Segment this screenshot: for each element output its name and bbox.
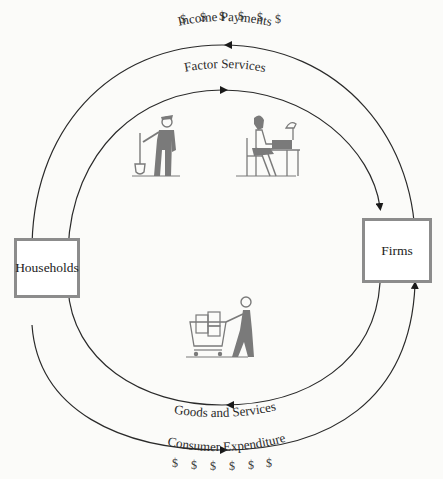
factor-services-label: Factor Services <box>183 56 267 75</box>
dollar-icon: $ <box>210 459 216 473</box>
worker-shovel-icon <box>132 115 180 176</box>
firms-box: Firms <box>362 218 432 283</box>
shopper-cart-icon <box>186 297 254 357</box>
income-payments-label: Income Payments <box>176 9 273 29</box>
dollar-icon: $ <box>229 459 235 473</box>
goods-services-arrow <box>68 283 380 405</box>
arrowhead-income-icon <box>224 41 232 49</box>
dollar-icon: $ <box>275 12 281 26</box>
firms-label: Firms <box>381 243 413 259</box>
factor-services-arrow <box>68 90 380 250</box>
households-label: Households <box>15 260 79 276</box>
consumer-expenditure-label: Consumer Expenditure <box>166 430 287 454</box>
households-box: Households <box>14 238 80 298</box>
dollar-icon: $ <box>248 458 254 472</box>
dollar-icon: $ <box>266 456 272 470</box>
goods-services-label: Goods and Services <box>173 399 277 421</box>
mid-arrowheads <box>220 41 234 454</box>
income-payments-arrow <box>32 45 415 255</box>
arrowhead-factor-icon <box>220 86 228 94</box>
dollar-icon: $ <box>191 458 197 472</box>
dollar-icon: $ <box>172 456 178 470</box>
outer-flow-arrows <box>32 45 415 450</box>
office-worker-icon <box>236 115 300 176</box>
dollar-signs-bottom: $ $ $ $ $ $ <box>172 456 272 473</box>
consumer-expenditure-arrow <box>32 285 415 450</box>
